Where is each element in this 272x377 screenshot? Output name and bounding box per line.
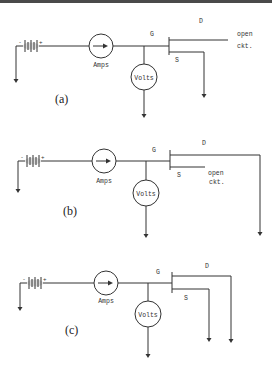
drain-label: D [202, 140, 206, 147]
voltmeter-label: Volts [136, 191, 156, 198]
fet-transistor: GDS [156, 263, 234, 343]
ground-arrow-icon [142, 114, 147, 118]
circuit-a: -+AmpsVoltsGDSopenckt.(a) [14, 18, 253, 118]
battery-plus-label: + [41, 154, 45, 160]
fet-transistor: GDSopenckt. [152, 140, 263, 236]
battery-plus-label: + [39, 39, 43, 45]
ground-arrow-icon [18, 307, 23, 311]
source-label: S [184, 295, 188, 302]
ammeter: Amps [89, 34, 113, 69]
ground-arrow-icon [146, 354, 151, 358]
ammeter-label: Amps [98, 298, 114, 305]
ammeter: Amps [94, 271, 118, 305]
open-circuit-label: open [237, 31, 253, 38]
drain-label: D [199, 18, 203, 25]
voltmeter: Volts [133, 161, 159, 238]
fet-transistor: GDSopenckt. [150, 18, 253, 98]
battery-minus-label: - [23, 276, 25, 282]
ammeter: Amps [92, 149, 116, 185]
open-circuit-label: open [208, 170, 224, 177]
circuit-caption: (b) [63, 204, 77, 218]
ground-arrow-icon [16, 189, 21, 193]
ground-arrow-icon [144, 234, 149, 238]
source-label: S [177, 172, 181, 179]
voltmeter-label: Volts [138, 312, 158, 319]
open-circuit-label: ckt. [209, 179, 225, 186]
circuit-caption: (c) [65, 323, 78, 337]
circuit-caption: (a) [55, 92, 68, 106]
circuit-diagram: -+AmpsVoltsGDSopenckt.(a)-+AmpsVoltsGDSo… [0, 0, 272, 377]
gate-label: G [152, 147, 156, 154]
ground-arrow-icon [202, 94, 207, 98]
battery-minus-label: - [19, 39, 21, 45]
circuits-group: -+AmpsVoltsGDSopenckt.(a)-+AmpsVoltsGDSo… [14, 18, 263, 358]
circuit-b: -+AmpsVoltsGDSopenckt.(b) [16, 140, 263, 238]
ground-arrow-icon [258, 232, 263, 236]
source-label: S [175, 57, 179, 64]
ammeter-label: Amps [96, 178, 112, 185]
voltmeter-label: Volts [134, 75, 154, 82]
ground-arrow-icon [207, 338, 212, 342]
drain-label: D [205, 263, 209, 270]
open-circuit-label: ckt. [237, 43, 253, 50]
voltmeter: Volts [131, 46, 157, 118]
ground-arrow-icon [229, 339, 234, 343]
gate-label: G [156, 269, 160, 276]
ammeter-label: Amps [93, 62, 109, 69]
ground-arrow-icon [14, 79, 19, 83]
battery-minus-label: - [21, 154, 23, 160]
gate-label: G [150, 31, 154, 38]
circuit-c: -+AmpsVoltsGDS(c) [18, 263, 234, 358]
battery-plus-label: + [43, 276, 47, 282]
voltmeter: Volts [135, 283, 161, 358]
